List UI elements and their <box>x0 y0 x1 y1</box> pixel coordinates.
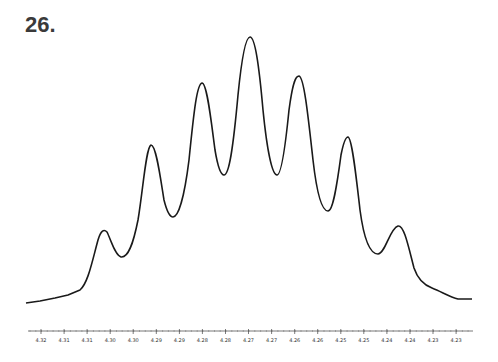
nmr-spectrum-chart: 4.324.314.314.304.304.294.294.284.284.27… <box>0 0 498 362</box>
x-tick-label: 4.26 <box>312 337 323 343</box>
x-tick-label: 4.25 <box>358 337 369 343</box>
x-tick-label: 4.24 <box>381 337 392 343</box>
x-tick-label: 4.24 <box>404 337 415 343</box>
x-tick-label: 4.28 <box>220 337 231 343</box>
x-tick-label: 4.27 <box>243 337 254 343</box>
x-axis: 4.324.314.314.304.304.294.294.284.284.27… <box>28 329 473 343</box>
x-tick-label: 4.31 <box>82 337 93 343</box>
x-tick-label: 4.29 <box>174 337 185 343</box>
x-tick-label: 4.26 <box>289 337 300 343</box>
x-tick-label: 4.30 <box>105 337 116 343</box>
x-tick-label: 4.28 <box>197 337 208 343</box>
x-tick-label: 4.31 <box>59 337 70 343</box>
x-tick-label: 4.29 <box>151 337 162 343</box>
spectrum-trace <box>26 37 472 303</box>
x-tick-label: 4.32 <box>35 337 46 343</box>
x-tick-label: 4.23 <box>427 337 438 343</box>
x-tick-label: 4.23 <box>451 337 462 343</box>
x-tick-label: 4.30 <box>128 337 139 343</box>
x-tick-label: 4.25 <box>335 337 346 343</box>
x-tick-label: 4.27 <box>266 337 277 343</box>
